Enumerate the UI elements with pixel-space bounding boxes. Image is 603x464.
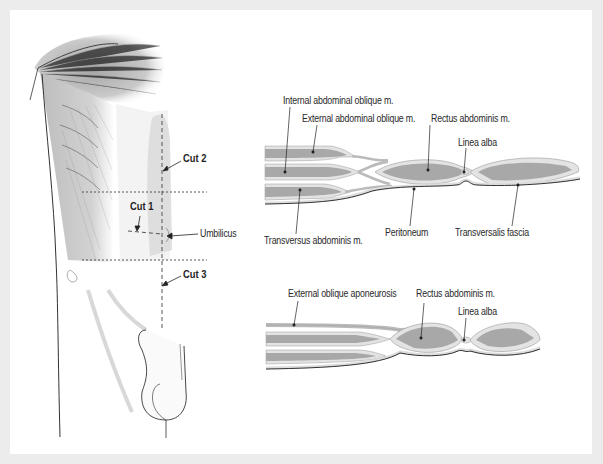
- cross-section-lower: [262, 322, 540, 372]
- transversalis-fascia-label: Transversalis fascia: [455, 227, 529, 238]
- rectus-lower-label: Rectus abdominis m.: [416, 288, 495, 299]
- cross-section-upper: [262, 142, 580, 206]
- linea-alba-upper-label: Linea alba: [458, 137, 497, 148]
- peritoneum-label: Peritoneum: [385, 227, 428, 238]
- umbilicus-label: Umbilicus: [200, 228, 237, 239]
- cut-3-label: Cut 3: [183, 268, 206, 280]
- cut-1-label: Cut 1: [130, 200, 153, 212]
- internal-oblique-label: Internal abdominal oblique m.: [283, 95, 393, 106]
- linea-alba-lower-label: Linea alba: [458, 306, 497, 317]
- transversus-label: Transversus abdominis m.: [264, 235, 363, 246]
- cut-2-label: Cut 2: [183, 152, 206, 164]
- rectus-upper-label: Rectus abdominis m.: [431, 113, 510, 124]
- ext-oblique-aponeurosis-label: External oblique aponeurosis: [288, 288, 397, 299]
- torso-illustration: [30, 34, 207, 438]
- external-oblique-label: External abdominal oblique m.: [302, 113, 415, 124]
